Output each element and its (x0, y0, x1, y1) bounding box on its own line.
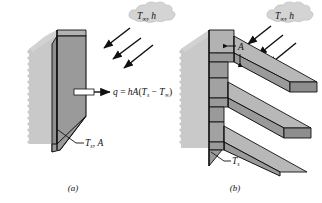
panel-a-left-edge (52, 36, 57, 152)
panel-a-convection-arrows (104, 28, 153, 68)
panel-a-fluid-cloud: T∞, h (129, 2, 175, 23)
panel-b-base-2 (209, 107, 224, 122)
panel-a-flux-callout (74, 89, 110, 95)
panel-b-wall-backing (179, 30, 209, 148)
panel-a-surface-label: Ts, A (85, 138, 103, 149)
panel-a-top-face (57, 30, 86, 36)
figure-canvas: T∞, h q = hA(Ts − T∞) Ts, A (a) (0, 0, 322, 203)
panel-b-surface-label: Ts (232, 156, 240, 167)
panel-b-caption: (b) (230, 183, 241, 193)
panel-a-caption: (a) (68, 183, 79, 193)
panel-a-arrow-1 (104, 28, 130, 48)
panel-b-dimension-label: A (237, 42, 244, 52)
panel-b-fluid-label: T∞, h (275, 11, 294, 22)
panel-a-arrow-3 (124, 45, 153, 68)
panel-a: T∞, h q = hA(Ts − T∞) Ts, A (a) (27, 2, 175, 193)
panel-a-fluid-label: T∞, h (137, 11, 156, 22)
heat-transfer-figure: T∞, h q = hA(Ts − T∞) Ts, A (a) (0, 0, 322, 203)
panel-a-equation: q = hA(Ts − T∞) (113, 87, 172, 98)
panel-b-fluid-cloud: T∞, h (267, 2, 313, 23)
panel-a-arrow-2 (113, 38, 141, 59)
panel-b: T∞, h (179, 2, 317, 193)
panel-b-arrow-1 (248, 26, 271, 44)
panel-b-base-1 (209, 62, 228, 78)
